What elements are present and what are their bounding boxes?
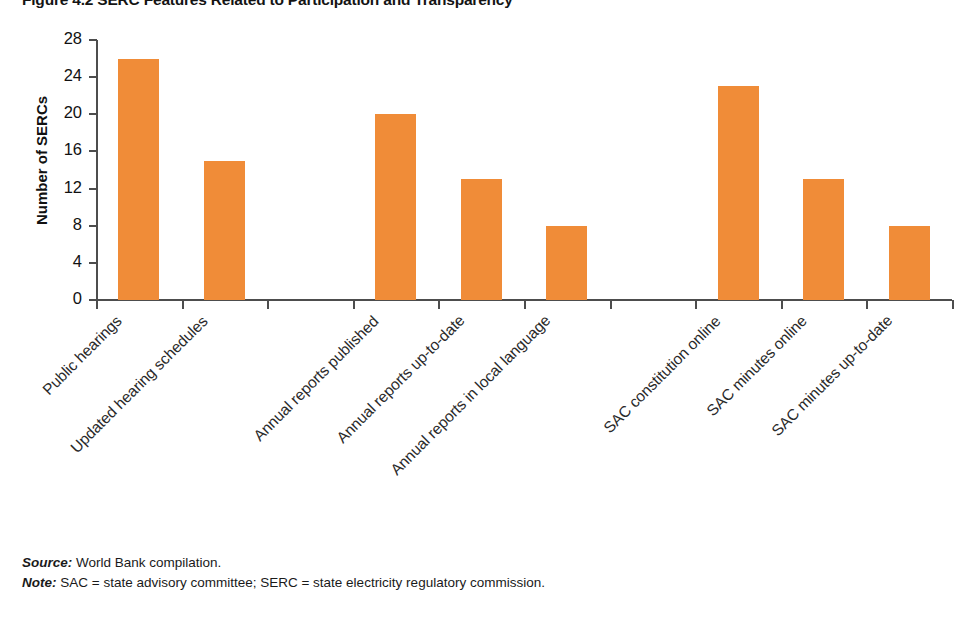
x-axis-tick: [952, 300, 954, 309]
x-axis-tick: [610, 300, 612, 309]
x-axis-tick: [182, 300, 184, 309]
source-text: World Bank compilation.: [72, 555, 221, 570]
bar: [118, 59, 159, 300]
bar: [546, 226, 587, 300]
x-axis-category-label: Annual reports in local language: [387, 312, 554, 479]
bar: [204, 161, 245, 300]
y-axis-tick-label-wrap: 0: [0, 300, 82, 301]
x-axis-tick: [524, 300, 526, 309]
bar: [461, 179, 502, 300]
bar-series: [0, 40, 959, 300]
source-line: Source: World Bank compilation.: [22, 553, 545, 573]
x-axis-tick: [438, 300, 440, 309]
bar: [889, 226, 930, 300]
note-label: Note:: [22, 575, 57, 590]
x-axis-tick: [781, 300, 783, 309]
x-axis-tick: [96, 300, 98, 309]
x-axis-tick: [866, 300, 868, 309]
bar: [718, 86, 759, 300]
figure-footnotes: Source: World Bank compilation. Note: SA…: [22, 553, 545, 593]
x-axis-category-label: Updated hearing schedules: [67, 312, 211, 456]
source-label: Source:: [22, 555, 72, 570]
bar: [803, 179, 844, 300]
x-axis-category-label: SAC constitution online: [600, 312, 724, 436]
x-axis-tick: [695, 300, 697, 309]
x-axis-tick: [267, 300, 269, 309]
x-axis-tick: [353, 300, 355, 309]
bar: [375, 114, 416, 300]
note-text: SAC = state advisory committee; SERC = s…: [57, 575, 545, 590]
note-line: Note: SAC = state advisory committee; SE…: [22, 573, 545, 593]
chart-plot-area: Number of SERCs 0481216202428 Public hea…: [0, 0, 959, 530]
x-axis-category-label: Public hearings: [39, 312, 126, 399]
